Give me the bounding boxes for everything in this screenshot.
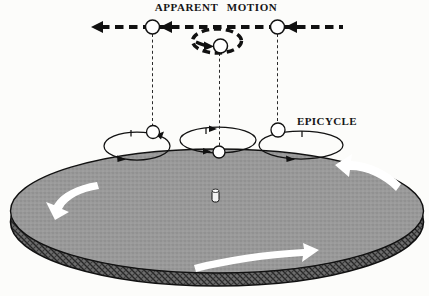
planet-on-path-left	[146, 20, 160, 34]
planet-on-loop	[214, 39, 228, 53]
planet-on-epicycle-right	[271, 123, 285, 137]
loop-direction-arrowhead	[204, 42, 214, 51]
planet-on-path-right	[271, 20, 285, 34]
planet-on-epicycle-left	[147, 126, 160, 139]
apparent-motion-track	[91, 20, 343, 53]
left-arrowhead-after-circle	[160, 21, 172, 33]
right-arrowhead-after-circle	[285, 21, 297, 33]
diagram-graphics	[0, 0, 429, 296]
apparent-motion-label: APPARENT MOTION	[110, 1, 322, 13]
left-arrowhead-end	[91, 21, 103, 33]
epicycle-retrograde-diagram: APPARENT MOTION EPICYCLE	[0, 0, 429, 296]
epicycle-label: EPICYCLE	[297, 115, 357, 127]
center-peg	[212, 189, 219, 202]
planet-on-epicycle-middle	[213, 146, 225, 158]
